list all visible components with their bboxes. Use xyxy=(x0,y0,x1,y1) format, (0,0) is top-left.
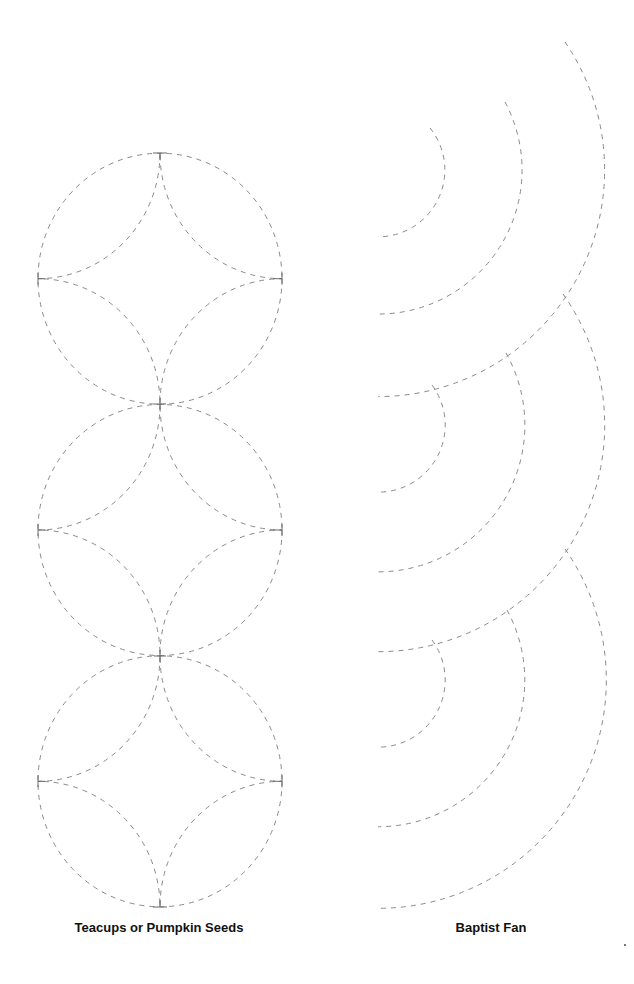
fan-arc xyxy=(378,385,445,492)
fan-arc xyxy=(378,294,605,652)
pumpkin-seed-star xyxy=(38,153,282,404)
fan-arc xyxy=(378,42,605,397)
fan-arc xyxy=(378,353,525,572)
pumpkin-seed-star xyxy=(38,405,282,656)
fan-arc xyxy=(378,128,445,237)
fan-arc xyxy=(378,549,606,908)
teacup-circle xyxy=(38,405,282,656)
pumpkin-seed-star xyxy=(38,656,282,907)
teacup-circle xyxy=(38,153,282,404)
baptist-fan-caption: Baptist Fan xyxy=(456,920,527,936)
fan-arc xyxy=(378,102,522,314)
teacups-caption: Teacups or Pumpkin Seeds xyxy=(75,920,244,936)
paper-speck xyxy=(624,944,626,946)
quilting-pattern-page: Teacups or Pumpkin Seeds Baptist Fan xyxy=(0,0,634,984)
pattern-artwork xyxy=(0,0,634,984)
teacups-pattern xyxy=(38,153,282,907)
teacup-circle xyxy=(38,656,282,907)
fan-arc xyxy=(378,610,525,827)
fan-arc xyxy=(378,640,445,747)
baptist-fan-pattern xyxy=(378,42,606,908)
